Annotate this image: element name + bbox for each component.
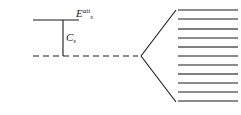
attachment-energy-label: Eatts [76,8,93,21]
continuum-label: Cs [66,32,76,45]
attachment-energy-subscript: s [90,13,93,21]
fan-bracket [141,10,176,102]
fan-upper-arm [141,10,176,56]
diagram-canvas [0,0,241,115]
left-energy-block [33,20,138,56]
continuum-subscript: s [73,37,76,45]
attachment-energy-base: E [76,7,83,19]
split-level-stack [178,10,238,101]
fan-lower-arm [141,56,176,102]
energy-level-diagram: Eatts Cs [0,0,241,115]
